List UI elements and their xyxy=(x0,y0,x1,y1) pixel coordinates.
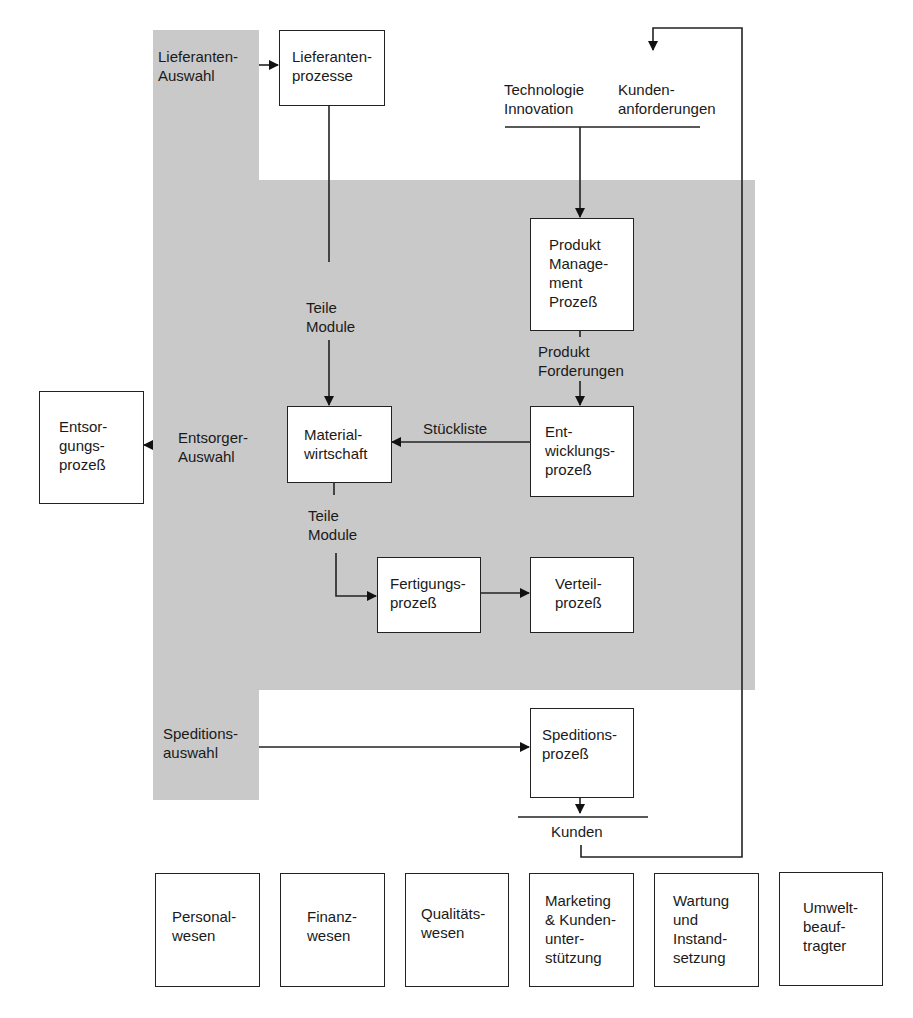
label-kundenanforderungen: Kunden- anforderungen xyxy=(618,80,716,118)
box-label: Wartung und Instand- setzung xyxy=(673,891,729,967)
support-box-finanzwesen: Finanz- wesen xyxy=(280,873,385,987)
box-label: Produkt Manage- ment Prozeß xyxy=(549,235,608,311)
box-entsorgungsprozess: Entsor- gungs- prozeß xyxy=(39,391,144,504)
label-technologie-innovation: Technologie Innovation xyxy=(504,80,584,118)
box-label: Umwelt- beauf- tragter xyxy=(803,898,858,955)
box-entwicklungsprozess: Ent- wicklungs- prozeß xyxy=(530,406,634,497)
connector-layer xyxy=(0,0,913,1018)
box-label: Verteil- prozeß xyxy=(555,574,602,612)
box-label: Fertigungs- prozeß xyxy=(390,574,466,612)
box-label: Entsor- gungs- prozeß xyxy=(59,417,107,474)
label-teile-module-top: Teile Module xyxy=(306,298,355,336)
label-teile-module-bottom: Teile Module xyxy=(308,506,357,544)
box-label: Marketing & Kunden- unter- stützung xyxy=(545,891,616,967)
box-label: Personal- wesen xyxy=(172,907,236,945)
support-box-umweltbeauftragter: Umwelt- beauf- tragter xyxy=(779,872,883,986)
label-entsorger-auswahl: Entsorger- Auswahl xyxy=(178,428,248,466)
arrow-teile-to-fertigung xyxy=(336,553,376,596)
label-produkt-forderungen: Produkt Forderungen xyxy=(538,342,624,380)
support-box-wartung: Wartung und Instand- setzung xyxy=(654,873,759,987)
box-speditionsprozess: Speditions- prozeß xyxy=(530,708,634,798)
box-materialwirtschaft: Material- wirtschaft xyxy=(287,406,392,483)
box-label: Ent- wicklungs- prozeß xyxy=(545,422,615,479)
support-box-personalwesen: Personal- wesen xyxy=(155,873,260,987)
box-label: Qualitäts- wesen xyxy=(421,904,485,942)
label-speditionsauswahl: Speditions- auswahl xyxy=(163,724,238,762)
support-box-marketing: Marketing & Kunden- unter- stützung xyxy=(529,873,634,987)
box-lieferantenprozesse: Lieferanten- prozesse xyxy=(279,30,385,106)
box-label: Lieferanten- prozesse xyxy=(292,47,372,85)
box-produkt-management: Produkt Manage- ment Prozeß xyxy=(530,218,634,331)
box-verteilprozess: Verteil- prozeß xyxy=(530,557,634,633)
label-stueckliste: Stückliste xyxy=(423,419,487,438)
box-label: Material- wirtschaft xyxy=(304,425,367,463)
box-label: Finanz- wesen xyxy=(307,907,357,945)
label-kunden: Kunden xyxy=(551,822,603,841)
support-box-qualitaetswesen: Qualitäts- wesen xyxy=(405,873,509,987)
label-lieferanten-auswahl: Lieferanten- Auswahl xyxy=(158,47,238,85)
box-label: Speditions- prozeß xyxy=(542,725,617,763)
box-fertigungsprozess: Fertigungs- prozeß xyxy=(377,557,481,633)
